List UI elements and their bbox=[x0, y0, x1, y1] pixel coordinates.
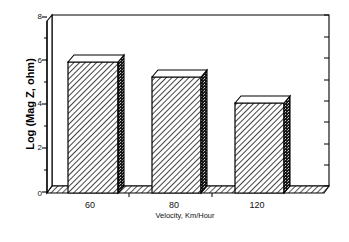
bar-chart: Log (Mag Z, ohm) 8 6 4 2 0 60 80 120 Vel… bbox=[0, 0, 349, 242]
plot-area bbox=[0, 0, 349, 242]
plot-left-wall bbox=[47, 15, 52, 193]
bar-80[interactable] bbox=[152, 70, 207, 193]
bar-120[interactable] bbox=[235, 96, 290, 193]
y-axis-major-ticks bbox=[42, 17, 47, 192]
bar-60[interactable] bbox=[68, 55, 124, 193]
